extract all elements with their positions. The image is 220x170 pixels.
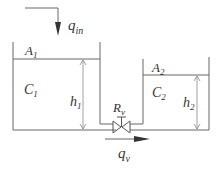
tank1-level-dimension	[80, 60, 86, 129]
tank2-level-label: h2	[183, 95, 195, 112]
tank2-capacitance-label: C2	[152, 85, 166, 102]
outflow-label: qv	[118, 145, 131, 164]
inflow-arrow	[25, 8, 58, 28]
tank2-area-label: A2	[151, 60, 165, 77]
valve-icon	[113, 117, 130, 133]
tank1-level-label: h1	[70, 94, 82, 111]
tank1-capacitance-label: C1	[24, 82, 38, 99]
diagram-canvas: qin A1 C1 h1 Rv A2 C2 h2	[0, 0, 220, 170]
inflow-arrowhead	[55, 22, 61, 36]
inflow-label: qin	[68, 17, 83, 36]
connecting-pipe	[100, 124, 209, 130]
two-tank-diagram: qin A1 C1 h1 Rv A2 C2 h2	[0, 0, 220, 170]
valve-label: Rv	[112, 100, 125, 117]
outflow-arrow	[105, 136, 150, 142]
tank2-level-dimension	[194, 76, 200, 129]
tank1-area-label: A1	[24, 43, 37, 60]
